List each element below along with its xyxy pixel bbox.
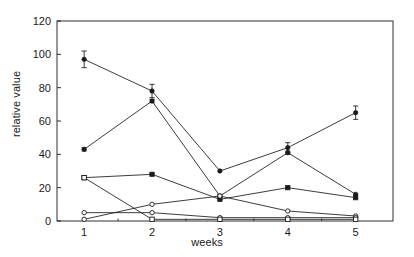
chart-figure: relative value weeks 020406080100120 123… (0, 0, 414, 257)
data-point (150, 172, 154, 176)
data-point (286, 150, 290, 154)
data-point (353, 110, 357, 114)
data-point (82, 175, 86, 179)
data-series-group (82, 51, 359, 222)
svg-text:60: 60 (39, 115, 51, 127)
data-point (286, 185, 290, 189)
data-point (353, 217, 357, 221)
line-chart-plot: 020406080100120 12345 (0, 0, 414, 257)
series-filled-circle (82, 51, 359, 173)
svg-text:20: 20 (39, 182, 51, 194)
data-point (218, 217, 222, 221)
plot-frame (57, 21, 393, 221)
x-axis-label: weeks (0, 236, 414, 248)
data-point (353, 195, 357, 199)
svg-text:120: 120 (33, 15, 51, 27)
svg-text:0: 0 (45, 215, 51, 227)
data-point (150, 99, 154, 103)
data-point (82, 217, 86, 221)
data-point (150, 89, 154, 93)
data-point (218, 169, 222, 173)
data-point (150, 210, 154, 214)
data-point (82, 210, 86, 214)
data-point (150, 217, 154, 221)
svg-text:40: 40 (39, 148, 51, 160)
series-filled-circle (82, 99, 358, 198)
data-point (82, 57, 86, 61)
data-point (286, 217, 290, 221)
data-point (82, 147, 86, 151)
y-tick-labels: 020406080100120 (33, 15, 51, 227)
svg-text:100: 100 (33, 48, 51, 60)
data-point (286, 145, 290, 149)
data-point (218, 194, 222, 198)
data-point (286, 209, 290, 213)
svg-text:80: 80 (39, 82, 51, 94)
data-point (150, 202, 154, 206)
y-axis-label: relative value (10, 44, 22, 164)
